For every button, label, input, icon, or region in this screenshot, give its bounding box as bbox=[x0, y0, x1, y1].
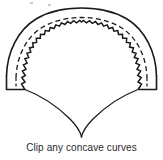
solid-outer-arc bbox=[7, 8, 157, 76]
figure-caption: Clip any concave curves bbox=[0, 142, 163, 153]
scan-speck-icon bbox=[30, 2, 33, 4]
dashed-seam-line bbox=[16, 18, 147, 79]
pattern-piece-drawing bbox=[0, 0, 163, 160]
scan-speck-icon bbox=[48, 4, 51, 6]
lower-left-concave-curve bbox=[25, 90, 82, 138]
instructional-figure: Clip any concave curves bbox=[0, 0, 163, 160]
zigzag-clipped-edge bbox=[22, 21, 142, 90]
lower-right-concave-curve bbox=[81, 90, 138, 138]
